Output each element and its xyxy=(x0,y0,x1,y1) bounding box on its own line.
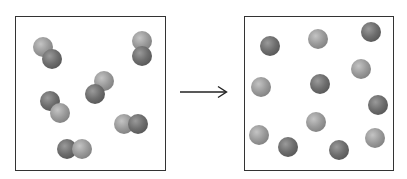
atom xyxy=(361,22,381,42)
atom xyxy=(249,125,269,145)
molecule-atom xyxy=(128,114,148,134)
atom xyxy=(260,36,280,56)
atom xyxy=(368,95,388,115)
atom xyxy=(329,140,349,160)
atom xyxy=(365,128,385,148)
molecule-atom xyxy=(50,103,70,123)
atom xyxy=(251,77,271,97)
atom xyxy=(351,59,371,79)
molecule-atom xyxy=(85,84,105,104)
atom xyxy=(306,112,326,132)
atom xyxy=(278,137,298,157)
atom xyxy=(310,74,330,94)
molecule-atom xyxy=(132,46,152,66)
reaction-arrow-icon xyxy=(178,85,230,99)
atom xyxy=(308,29,328,49)
molecule-atom xyxy=(72,139,92,159)
molecule-atom xyxy=(42,49,62,69)
